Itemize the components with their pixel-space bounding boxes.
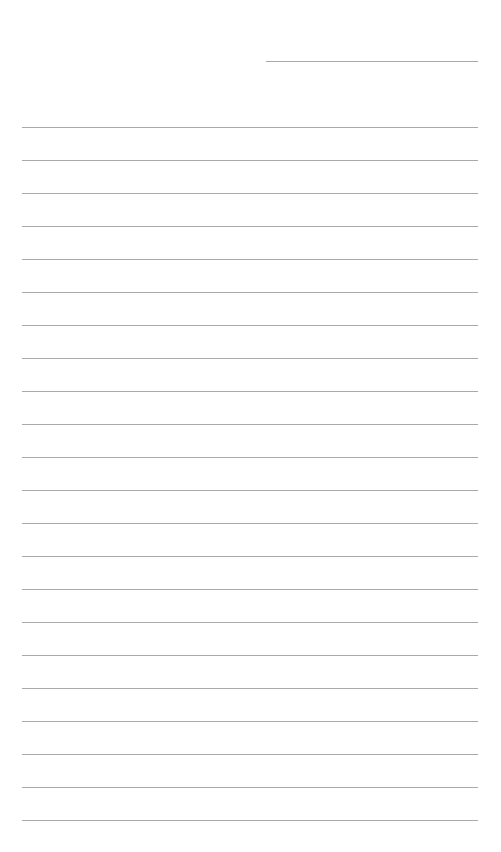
ruled-line — [22, 556, 478, 557]
header-name-line — [266, 61, 478, 62]
ruled-line — [22, 424, 478, 425]
ruled-line — [22, 655, 478, 656]
ruled-line — [22, 457, 478, 458]
ruled-line — [22, 259, 478, 260]
ruled-line — [22, 787, 478, 788]
lined-paper-page — [0, 0, 501, 852]
ruled-line — [22, 358, 478, 359]
ruled-line — [22, 193, 478, 194]
ruled-line — [22, 589, 478, 590]
ruled-line — [22, 721, 478, 722]
ruled-line — [22, 160, 478, 161]
ruled-line — [22, 226, 478, 227]
ruled-line — [22, 688, 478, 689]
ruled-line — [22, 391, 478, 392]
ruled-line — [22, 754, 478, 755]
ruled-line — [22, 820, 478, 821]
ruled-line — [22, 490, 478, 491]
ruled-line — [22, 325, 478, 326]
ruled-line — [22, 127, 478, 128]
ruled-line — [22, 292, 478, 293]
ruled-line — [22, 523, 478, 524]
ruled-line — [22, 622, 478, 623]
